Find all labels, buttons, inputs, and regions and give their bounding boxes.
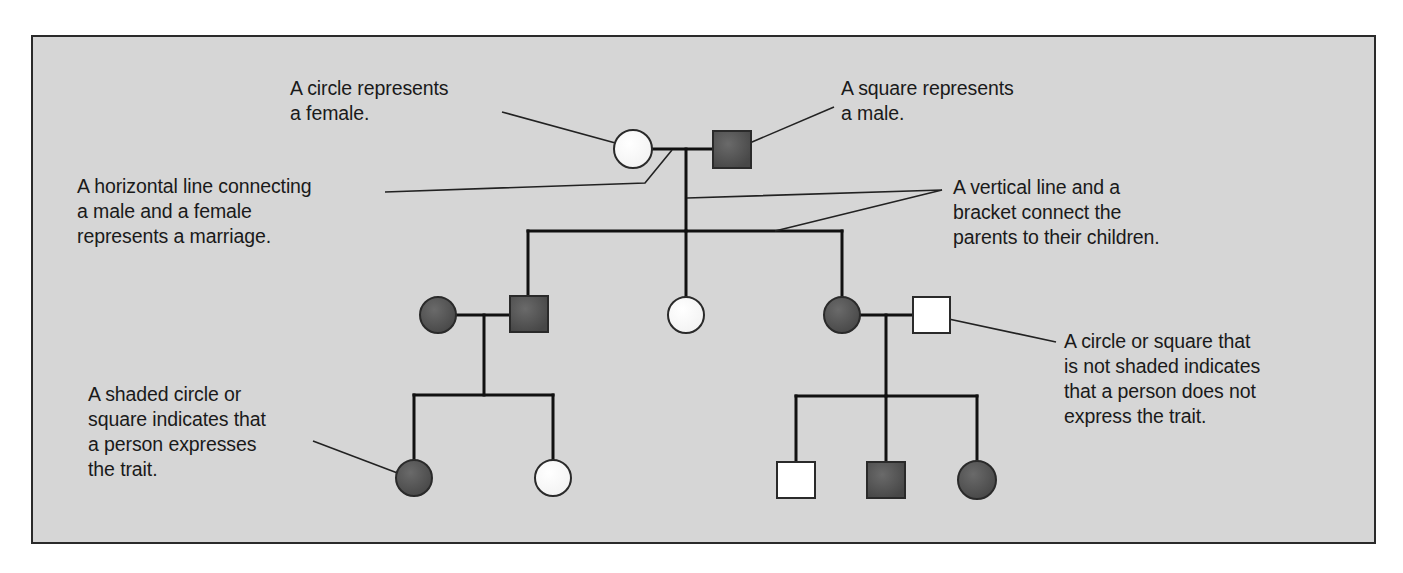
- gen3-male-unaffected: [777, 462, 815, 498]
- annotation-shaded: A shaded circle or square indicates that…: [88, 382, 266, 482]
- annotation-not-shaded: A circle or square that is not shaded in…: [1064, 329, 1260, 429]
- gen3-male-affected: [867, 462, 905, 498]
- gen2-female-affected: [824, 297, 860, 333]
- gen2-spouse-female-affected: [420, 297, 456, 333]
- gen3-female-unaffected: [535, 460, 571, 496]
- gen3-female-affected-right: [958, 461, 996, 499]
- gen2-left-connections: [414, 315, 553, 460]
- pointer-square: [738, 107, 834, 148]
- pointer-shaded: [313, 441, 408, 477]
- pointer-vertical-bracket: [687, 190, 942, 231]
- annotation-vertical-bracket: A vertical line and a bracket connect th…: [953, 175, 1160, 250]
- gen3-female-affected-left: [396, 460, 432, 496]
- gen2-right-connections: [796, 315, 977, 462]
- gen2-spouse-male-unaffected: [913, 297, 950, 333]
- gen1-female-unaffected: [614, 130, 652, 168]
- gen2-male-affected: [510, 296, 548, 332]
- pedigree-chart: [0, 0, 1403, 573]
- gen1-connections: [528, 149, 842, 297]
- annotation-square-male: A square represents a male.: [841, 76, 1014, 126]
- annotation-circle-female: A circle represents a female.: [290, 76, 449, 126]
- annotation-marriage-line: A horizontal line connecting a male and …: [77, 174, 312, 249]
- gen1-male-affected: [713, 131, 751, 168]
- pedigree-figure: A circle represents a female. A square r…: [0, 0, 1403, 573]
- gen2-female-unaffected: [668, 297, 704, 333]
- pointer-circle: [502, 112, 630, 147]
